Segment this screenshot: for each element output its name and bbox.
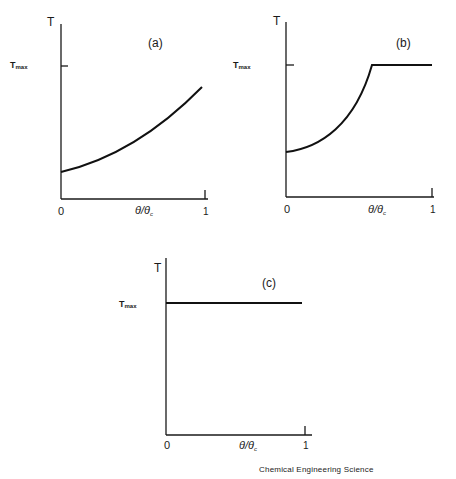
panel-b-x-tick-0-label: 0 xyxy=(284,203,290,215)
panel-a-y-label: T xyxy=(47,15,55,29)
source-credit: Chemical Engineering Science xyxy=(259,465,374,474)
panel-c-title: (c) xyxy=(262,276,276,290)
panel-a-x-label: θ/θc xyxy=(135,204,153,217)
panel-a-curve xyxy=(61,87,202,172)
panel-a-tmax-label: Tmax xyxy=(10,60,28,70)
panel-c-x-tick-0-label: 0 xyxy=(164,439,170,451)
panel-c-y-label: T xyxy=(154,261,162,275)
panel-a-x-tick-1-label: 1 xyxy=(203,206,209,217)
panel-b-title: (b) xyxy=(396,36,411,50)
panel-b-tmax-label: Tmax xyxy=(233,60,251,70)
panel-b: T Tmax (b) 0 1 θ/θc xyxy=(233,14,436,216)
panel-b-x-tick-1-label: 1 xyxy=(430,204,436,215)
panel-a-x-tick-0-label: 0 xyxy=(58,205,64,217)
figure-canvas: T Tmax (a) 0 1 θ/θc T Tmax (b) 0 1 θ/θc … xyxy=(0,0,456,479)
panel-b-x-label: θ/θc xyxy=(368,203,386,216)
panel-b-curve xyxy=(286,65,432,152)
panel-a-title: (a) xyxy=(148,36,163,50)
panel-c: T Tmax (c) 0 1 θ/θc xyxy=(119,258,312,452)
panel-c-tmax-label: Tmax xyxy=(119,299,137,309)
panel-b-y-label: T xyxy=(273,14,281,28)
panel-c-x-label: θ/θc xyxy=(239,439,257,452)
panel-c-x-tick-1-label: 1 xyxy=(303,440,309,451)
panel-a: T Tmax (a) 0 1 θ/θc xyxy=(10,15,209,217)
